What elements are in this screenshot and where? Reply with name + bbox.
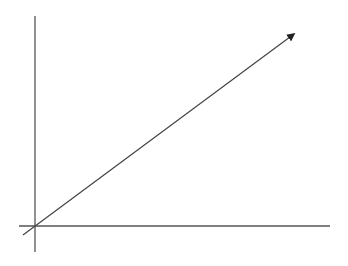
diagram-canvas (0, 0, 348, 266)
diagonal-arrow (23, 34, 294, 235)
